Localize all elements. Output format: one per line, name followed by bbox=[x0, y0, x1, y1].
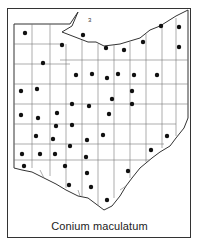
occurrence-dot bbox=[116, 72, 120, 76]
occurrence-dot bbox=[22, 164, 26, 168]
occurrence-dot bbox=[70, 102, 74, 106]
occurrence-dot bbox=[41, 61, 45, 65]
occurrence-dot bbox=[165, 134, 169, 138]
occurrence-dot bbox=[81, 33, 85, 37]
occurrence-dot bbox=[159, 24, 163, 28]
occurrence-dot bbox=[122, 48, 126, 52]
occurrence-dot bbox=[105, 76, 109, 80]
occurrence-dot bbox=[149, 148, 153, 152]
map-caption: Conium maculatum bbox=[0, 220, 199, 232]
occurrence-dot bbox=[54, 124, 58, 128]
ohio-county-map: 3 bbox=[0, 0, 199, 244]
occurrence-dot bbox=[63, 164, 67, 168]
occurrence-dot bbox=[38, 152, 42, 156]
occurrence-dot bbox=[19, 113, 23, 117]
occurrence-dot bbox=[70, 123, 74, 127]
occurrence-dot bbox=[130, 89, 134, 93]
occurrence-dot bbox=[126, 169, 130, 173]
occurrence-dot bbox=[51, 137, 55, 141]
occurrence-dot bbox=[107, 112, 111, 116]
occurrence-dot bbox=[89, 185, 93, 189]
occurrence-dot bbox=[60, 43, 64, 47]
occurrence-dot bbox=[155, 73, 159, 77]
occurrence-dot bbox=[74, 73, 78, 77]
occurrence-dot bbox=[85, 171, 89, 175]
occurrence-dot bbox=[132, 73, 136, 77]
occurrence-dot bbox=[90, 72, 94, 76]
occurrence-dot bbox=[34, 134, 38, 138]
occurrence-dot bbox=[36, 116, 40, 120]
occurrence-dot bbox=[35, 87, 39, 91]
occurrence-dot bbox=[53, 152, 57, 156]
occurrence-dot bbox=[177, 45, 181, 49]
occurrence-dot bbox=[110, 97, 114, 101]
occurrence-dot bbox=[101, 133, 105, 137]
occurrence-dot bbox=[84, 155, 88, 159]
occurrence-dot bbox=[68, 144, 72, 148]
occurrence-dot bbox=[85, 138, 89, 142]
occurrence-dot bbox=[104, 46, 108, 50]
occurrence-dot bbox=[67, 183, 71, 187]
occurrence-dot bbox=[87, 104, 91, 108]
occurrence-dot bbox=[177, 25, 181, 29]
occurrence-dot bbox=[20, 152, 24, 156]
occurrence-dot bbox=[19, 89, 23, 93]
occurrence-dot bbox=[105, 198, 109, 202]
occurrence-dot bbox=[141, 40, 145, 44]
occurrence-dots bbox=[19, 24, 181, 202]
occurrence-dot bbox=[23, 31, 27, 35]
occurrence-dot bbox=[55, 111, 59, 115]
lake-label: 3 bbox=[88, 17, 92, 23]
occurrence-dot bbox=[130, 102, 134, 106]
county-lines bbox=[14, 18, 188, 206]
